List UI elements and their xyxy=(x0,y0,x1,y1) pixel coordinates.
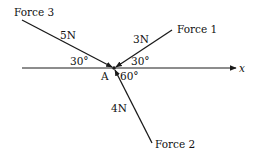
force-2-name: Force 2 xyxy=(155,138,195,150)
force-3-angle: 30° xyxy=(70,55,89,67)
force-3-magnitude: 5N xyxy=(60,29,76,41)
x-axis-label: x xyxy=(239,62,245,74)
force-3-line xyxy=(22,20,112,67)
force-1-magnitude: 3N xyxy=(133,33,149,45)
force-1-name: Force 1 xyxy=(177,23,217,35)
point-a-label: A xyxy=(100,70,109,82)
force-2-magnitude: 4N xyxy=(111,102,127,114)
force-2-angle: 60° xyxy=(120,70,139,82)
force-1-angle: 30° xyxy=(131,55,150,67)
force-diagram: x A Force 3 5N 30° Force 1 3N 30° 60° 4N… xyxy=(0,0,256,163)
force-3-name: Force 3 xyxy=(14,6,54,18)
point-a-marker xyxy=(112,66,116,70)
